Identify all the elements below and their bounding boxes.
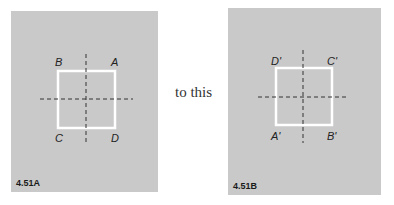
connector-text: to this — [175, 84, 212, 101]
vertex-label-a: A — [111, 56, 118, 68]
square-diagram-b — [228, 8, 381, 195]
figure-panel-a: B A C D 4.51A — [11, 11, 158, 192]
vertex-label-d: D — [111, 132, 119, 144]
vertex-label-b-prime: B' — [327, 130, 336, 142]
vertex-label-c-prime: C' — [327, 55, 337, 67]
vertex-label-d-prime: D' — [271, 55, 281, 67]
vertex-label-a-prime: A' — [271, 130, 280, 142]
figure-label-a: 4.51A — [16, 178, 40, 188]
vertex-label-b: B — [55, 56, 62, 68]
figure-label-b: 4.51B — [233, 181, 257, 191]
square-diagram-a — [11, 11, 158, 192]
vertex-label-c: C — [55, 132, 63, 144]
figure-panel-b: D' C' A' B' 4.51B — [228, 8, 381, 195]
